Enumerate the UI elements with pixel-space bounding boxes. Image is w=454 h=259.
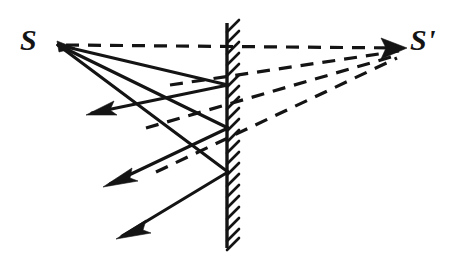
arrowheads-group — [86, 38, 407, 239]
virtual-ray-2 — [146, 55, 398, 128]
optics-ray-diagram: S S' — [0, 0, 454, 259]
reflected-ray-1 — [92, 85, 228, 113]
reflected-rays-group — [92, 85, 228, 236]
incident-rays-group — [58, 45, 228, 172]
virtual-image-point-label: S' — [410, 25, 436, 55]
source-point-label: S — [20, 25, 37, 55]
incident-ray-2 — [58, 45, 228, 128]
ray-diagram-canvas — [0, 0, 454, 259]
arrowhead-reflected-2 — [103, 168, 138, 187]
